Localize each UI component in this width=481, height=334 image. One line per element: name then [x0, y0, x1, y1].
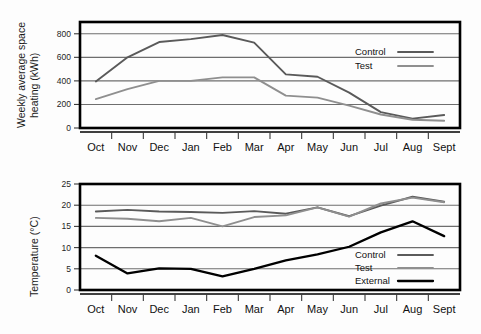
- x-tick-label: Aug: [403, 141, 423, 153]
- y-tick-label: 10: [62, 243, 72, 253]
- x-tick-label: Aug: [403, 303, 423, 315]
- x-tick-label: Nov: [118, 303, 138, 315]
- y-tick-label: 200: [57, 99, 71, 109]
- legend-label-control: Control: [355, 46, 386, 57]
- series-line-control: [96, 197, 444, 217]
- legend-label-control: Control: [355, 249, 386, 260]
- x-tick-label: Feb: [213, 303, 232, 315]
- legend-label-test: Test: [355, 262, 373, 273]
- x-tick-label: Oct: [87, 141, 104, 153]
- temperature-plot: Temperature (°C) 0510152025 OctNovDecJan…: [0, 167, 481, 334]
- temperature-chart: Temperature (°C) 0510152025 OctNovDecJan…: [0, 167, 481, 334]
- gridlines-top: [80, 34, 460, 128]
- space-heating-plot: Weekly average space heating (kWh) 02004…: [0, 0, 481, 167]
- y-tick-label: 15: [62, 221, 72, 231]
- x-tick-label: Jul: [374, 141, 388, 153]
- x-tick-label: Mar: [245, 141, 264, 153]
- x-tick-label: Apr: [277, 141, 294, 153]
- x-tick-label: Sept: [433, 141, 456, 153]
- x-tick-label: Feb: [213, 141, 232, 153]
- plot-frame-top: [80, 22, 460, 128]
- y-tick-label: 25: [62, 179, 72, 189]
- x-tick-label: Oct: [87, 303, 104, 315]
- x-tick-label: Apr: [277, 303, 294, 315]
- space-heating-chart: Weekly average space heating (kWh) 02004…: [0, 0, 481, 167]
- x-tick-label: May: [307, 141, 328, 153]
- y-tick-label: 5: [66, 264, 71, 274]
- x-tick-label: Mar: [245, 303, 264, 315]
- y-axis-label-line2: heating (kWh): [28, 53, 40, 118]
- x-tick-label: Nov: [118, 141, 138, 153]
- y-tick-label: 600: [57, 52, 71, 62]
- y-tick-label: 0: [66, 123, 71, 133]
- y-axis-ticks-bottom: 0510152025: [62, 179, 80, 295]
- x-tick-label: Sept: [433, 303, 456, 315]
- x-axis-ticks-bottom: OctNovDecJanFebMarAprMayJunJulAugSept: [87, 294, 455, 315]
- y-axis-label-temperature: Temperature (°C): [28, 216, 40, 297]
- y-tick-label: 400: [57, 76, 71, 86]
- legend-bottom: ControlTestExternal: [355, 249, 433, 286]
- y-tick-label: 0: [66, 285, 71, 295]
- x-axis-ticks-top: OctNovDecJanFebMarAprMayJunJulAugSept: [87, 132, 455, 153]
- x-tick-label: Dec: [149, 303, 169, 315]
- y-axis-ticks-top: 0200400600800: [57, 29, 80, 133]
- x-tick-label: Jan: [182, 303, 200, 315]
- series-line-control: [96, 35, 444, 119]
- y-tick-label: 20: [62, 200, 72, 210]
- x-tick-label: Jan: [182, 141, 200, 153]
- x-tick-label: Dec: [149, 141, 169, 153]
- figure-container: Weekly average space heating (kWh) 02004…: [0, 0, 481, 334]
- legend-top: ControlTest: [355, 46, 433, 71]
- x-tick-label: Jun: [340, 303, 358, 315]
- series-line-external: [96, 221, 444, 276]
- legend-label-external: External: [355, 275, 390, 286]
- series-group-top: [96, 35, 444, 121]
- gridlines-bottom: [80, 205, 460, 290]
- legend-label-test: Test: [355, 60, 373, 71]
- y-tick-label: 800: [57, 29, 71, 39]
- x-tick-label: Jul: [374, 303, 388, 315]
- x-tick-label: May: [307, 303, 328, 315]
- y-axis-label-line1: Weekly average space: [15, 22, 27, 128]
- x-tick-label: Jun: [340, 141, 358, 153]
- series-group-bottom: [96, 197, 444, 277]
